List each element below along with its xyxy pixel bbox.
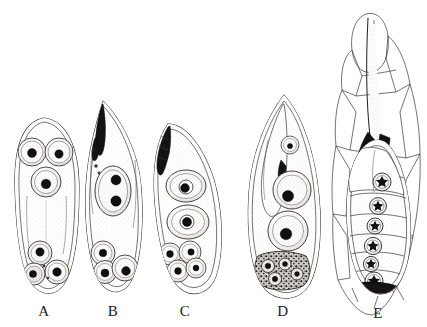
figure-a-nucleus-5: [29, 270, 36, 277]
figure-c-nucleus-1: [181, 184, 190, 193]
figure-b-nucleus-5: [122, 267, 131, 276]
figure-b-nucleus-1: [111, 175, 121, 185]
figure-b-upper-cell-group: [95, 166, 131, 216]
figure-e-nucleus-4: [364, 237, 381, 254]
figure-d-nucleus-6: [295, 272, 300, 277]
figure-d-nucleus-4: [283, 262, 288, 267]
figure-c-nucleus-2: [182, 217, 191, 226]
figure-a-nucleus-3: [41, 179, 51, 189]
figure-label-b: B: [108, 303, 119, 319]
figure-d-nucleus-apex: [287, 143, 292, 148]
figure-label-d: D: [277, 303, 288, 319]
figure-e-nucleus-1: [373, 173, 391, 191]
illustration-plate: A: [0, 0, 427, 327]
figure-label-a: A: [38, 303, 49, 319]
figure-c-nucleus-5: [175, 268, 182, 275]
figure-c-nucleus-4: [188, 249, 194, 255]
figure-d-nucleus-2: [280, 228, 292, 240]
figure-d-nucleus-1: [282, 190, 293, 201]
figure-a-nucleus-2: [55, 150, 63, 158]
plate-drawing: A: [0, 0, 427, 327]
figure-b-nucleus-2: [111, 196, 121, 206]
figure-e-nucleus-5: [363, 256, 378, 271]
figure-a-nucleus-6: [53, 268, 62, 277]
figure-c-nucleus-6: [193, 265, 199, 271]
figure-e-nucleus-2: [370, 198, 387, 215]
figure-e-nucleus-3: [367, 218, 383, 234]
figure-b-nucleus-3: [99, 249, 107, 257]
figure-a-nucleus-1: [28, 149, 37, 158]
figure-b-nucleus-4: [101, 269, 109, 277]
figure-d-basal-mass: [255, 252, 310, 290]
figure-a-nucleus-4: [36, 248, 44, 256]
figure-label-e: E: [373, 305, 383, 321]
figure-d-nucleus-3: [265, 263, 271, 269]
figure-d-nucleus-5: [272, 276, 277, 281]
figure-c-nucleus-3: [167, 251, 174, 258]
figure-label-c: C: [180, 303, 191, 319]
